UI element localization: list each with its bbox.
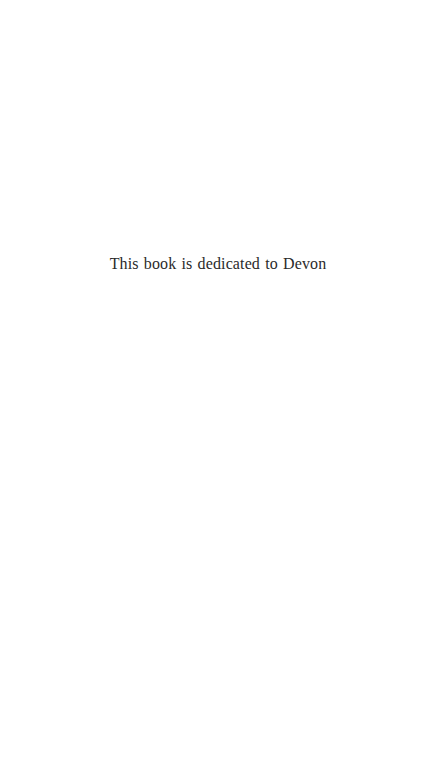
dedication-page: This book is dedicated to Devon: [0, 0, 436, 762]
dedication-text: This book is dedicated to Devon: [110, 253, 327, 275]
dedication-block: This book is dedicated to Devon: [0, 253, 436, 275]
